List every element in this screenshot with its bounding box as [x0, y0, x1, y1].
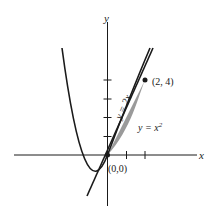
x-axis-label: x	[198, 149, 204, 161]
parabola-equation-exponent: 2	[159, 121, 163, 129]
point-intersection	[143, 78, 148, 83]
point-origin	[105, 153, 110, 158]
graph-canvas: y x (2, 4) (0,0) y = 2x y = x2	[0, 0, 217, 209]
parabola-equation-base: y = x	[137, 122, 159, 133]
parabola-equation-label: y = x2	[137, 121, 163, 133]
point-label-origin: (0,0)	[108, 163, 127, 175]
point-label-intersection: (2, 4)	[152, 76, 174, 88]
y-axis-label: y	[103, 12, 109, 24]
